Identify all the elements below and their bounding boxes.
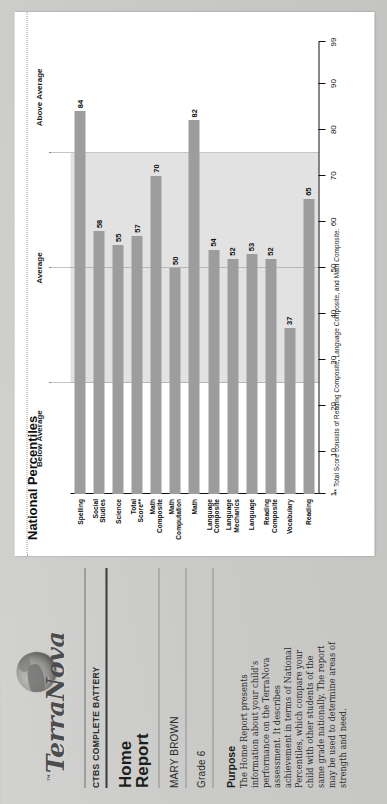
student-grade: Grade 6 xyxy=(191,568,210,788)
chart-bar: 58 xyxy=(93,231,104,494)
chart-bar-value: 52 xyxy=(228,247,237,255)
chart-bar-value: 55 xyxy=(113,234,122,242)
chart-tick-label: 80 xyxy=(328,125,337,134)
chart-category-label: Total Score** xyxy=(129,499,144,557)
trademark-symbol: ™ xyxy=(46,773,56,782)
chart-bar-row: 65Reading xyxy=(299,42,318,494)
chart-bar-row: 52Reading Composite xyxy=(261,42,280,494)
chart-tick-label: 70 xyxy=(328,171,337,180)
chart-category-label: Reading xyxy=(305,499,312,557)
chart-bar-value: 53 xyxy=(247,243,256,251)
purpose-body: The Home Report presents information abo… xyxy=(238,636,348,788)
chart-bar-row: 57Total Score** xyxy=(127,42,146,494)
chart-bar-row: 54Language Composite xyxy=(204,42,223,494)
brand-header: ™TerraNova xyxy=(10,568,82,788)
chart-card: National Percentiles Below AverageAverag… xyxy=(14,12,374,556)
chart-plot-area: Below AverageAverageAbove Average9990807… xyxy=(70,42,318,494)
chart-band-label: Above Average xyxy=(34,69,43,127)
rotated-page: ™TerraNova CTBS COMPLETE BATTERY Home Re… xyxy=(0,0,387,804)
chart-bar: 53 xyxy=(246,254,257,494)
chart-bar: 65 xyxy=(303,199,314,494)
chart-bar: 55 xyxy=(112,245,123,494)
chart-bar-value: 70 xyxy=(151,164,160,172)
report-info-panel: ™TerraNova CTBS COMPLETE BATTERY Home Re… xyxy=(6,562,381,794)
chart-bar: 50 xyxy=(169,268,180,494)
report-title: Home Report xyxy=(112,568,156,788)
chart-category-label: Language Composite xyxy=(206,499,221,557)
chart-bar-row: 37Vocabulary xyxy=(280,42,299,494)
chart-tick-label: 99 xyxy=(328,38,337,47)
chart-bar-row: 82Math xyxy=(184,42,203,494)
chart-bar: 84 xyxy=(74,111,85,494)
chart-bar-value: 65 xyxy=(304,187,313,195)
chart-bar-row: 52Language Mechanics xyxy=(223,42,242,494)
chart-bar-value: 52 xyxy=(266,247,275,255)
divider-grade xyxy=(185,568,186,788)
chart-category-label: Science xyxy=(114,499,121,557)
chart-bar: 57 xyxy=(131,236,142,494)
battery-label: CTBS COMPLETE BATTERY xyxy=(90,568,103,788)
report-title-line2: Report xyxy=(133,568,150,788)
chart-bar-value: 54 xyxy=(209,238,218,246)
chart-category-label: Social Studies xyxy=(91,499,106,557)
chart-bar-row: 55Science xyxy=(108,42,127,494)
chart-bar-row: 84Spelling xyxy=(70,42,89,494)
chart-bar: 52 xyxy=(227,259,238,494)
chart-bar: 52 xyxy=(265,259,276,494)
chart-category-label: Spelling xyxy=(76,499,83,557)
chart-category-label: Language Mechanics xyxy=(225,499,240,557)
chart-bar-value: 82 xyxy=(189,109,198,117)
chart-top-rule xyxy=(26,12,27,556)
chart-tick-label: 60 xyxy=(328,217,337,226)
divider-purpose xyxy=(212,568,213,788)
chart-bar-value: 37 xyxy=(285,317,294,325)
divider-title xyxy=(105,568,107,788)
chart-bar-value: 57 xyxy=(132,224,141,232)
divider-student xyxy=(158,568,159,788)
chart-category-label: Math Composite xyxy=(148,499,163,557)
chart-bar-value: 50 xyxy=(170,257,179,265)
chart-category-label: Vocabulary xyxy=(286,499,293,557)
brand-name: TerraNova xyxy=(40,632,69,774)
chart-band-label: Average xyxy=(34,252,43,283)
chart-tick-label: 90 xyxy=(328,79,337,88)
chart-bar-row: 53Language xyxy=(242,42,261,494)
chart-category-label: Math Computation xyxy=(168,499,183,557)
chart-bar-row: 70Math Composite xyxy=(146,42,165,494)
chart-bar-value: 58 xyxy=(94,220,103,228)
chart-footnote: ** Total Score consists of Reading Compo… xyxy=(332,228,339,494)
chart-category-label: Math xyxy=(190,499,197,557)
report-title-line1: Home xyxy=(116,568,133,788)
divider-top xyxy=(84,568,85,788)
chart-bar-row: 58Social Studies xyxy=(89,42,108,494)
brand-logo: ™TerraNova xyxy=(40,632,69,782)
chart-bar-value: 84 xyxy=(75,100,84,108)
chart-bar: 37 xyxy=(284,328,295,494)
purpose-heading: Purpose xyxy=(218,568,238,788)
chart-bar: 54 xyxy=(208,250,219,494)
student-name: MARY BROWN xyxy=(164,568,183,788)
chart-category-label: Reading Composite xyxy=(263,499,278,557)
chart-category-label: Language xyxy=(248,499,255,557)
chart-bar-row: 50Math Computation xyxy=(165,42,184,494)
chart-bar: 70 xyxy=(150,176,161,494)
chart-bar: 82 xyxy=(188,120,199,494)
chart-band-label: Below Average xyxy=(34,410,43,467)
